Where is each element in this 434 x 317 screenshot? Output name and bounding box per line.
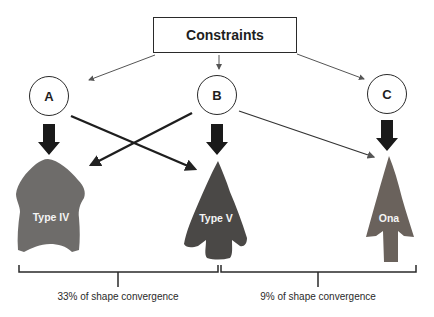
bracket-left [19,265,218,272]
type-iv-point-shape [16,159,85,252]
caption-left: 33% of shape convergence [57,291,178,302]
ona-point-shape [366,156,414,262]
node-a-label: A [44,89,53,104]
caption-right: 9% of shape convergence [260,291,376,302]
type-v-point-shape [184,161,247,260]
ona-label: Ona [379,212,399,224]
arrow-to-a [89,55,155,80]
arrow-b-to-ona [239,111,374,157]
constraints-box: Constraints [153,17,297,53]
thick-arrow-a-icon [38,124,60,155]
type-v-label: Type V [199,212,233,224]
type-iv-label: Type IV [33,211,70,223]
node-c: C [367,74,407,114]
node-a: A [29,76,69,116]
node-c-label: C [382,87,391,102]
thick-arrow-b-icon [206,124,228,155]
bracket-right [221,265,416,272]
constraints-title: Constraints [186,27,264,43]
arrow-b-to-type-iv [91,113,192,165]
thick-arrow-c-icon [376,120,398,151]
brackets [19,265,416,287]
node-b-label: B [212,88,221,103]
constraint-arrows [89,54,364,80]
node-b: B [197,75,237,115]
arrow-to-c [297,54,364,79]
